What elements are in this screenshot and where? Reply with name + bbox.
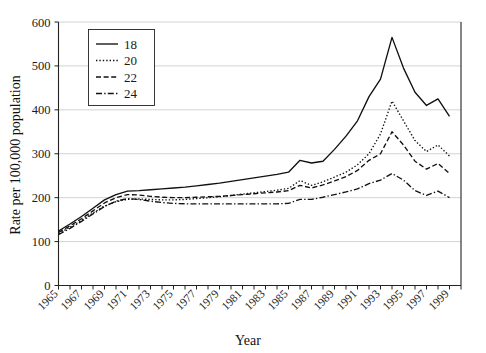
line-chart: 0100200300400500600 19651967196919711973… <box>0 0 486 353</box>
y-tick-label: 500 <box>32 59 51 73</box>
legend-label-22: 22 <box>124 70 137 85</box>
y-tick-label: 300 <box>32 147 51 161</box>
x-axis-title: Year <box>235 333 261 348</box>
legend-label-24: 24 <box>124 86 138 101</box>
legend-label-20: 20 <box>124 53 137 68</box>
y-axis-title: Rate per 100,000 population <box>8 75 23 234</box>
y-tick-label: 200 <box>32 191 51 205</box>
legend-label-18: 18 <box>124 37 137 52</box>
y-tick-label: 400 <box>32 103 51 117</box>
legend: 18202224 <box>89 30 155 106</box>
y-tick-label: 600 <box>32 16 51 30</box>
y-tick-label: 100 <box>32 235 51 249</box>
chart-container: 0100200300400500600 19651967196919711973… <box>0 0 486 353</box>
